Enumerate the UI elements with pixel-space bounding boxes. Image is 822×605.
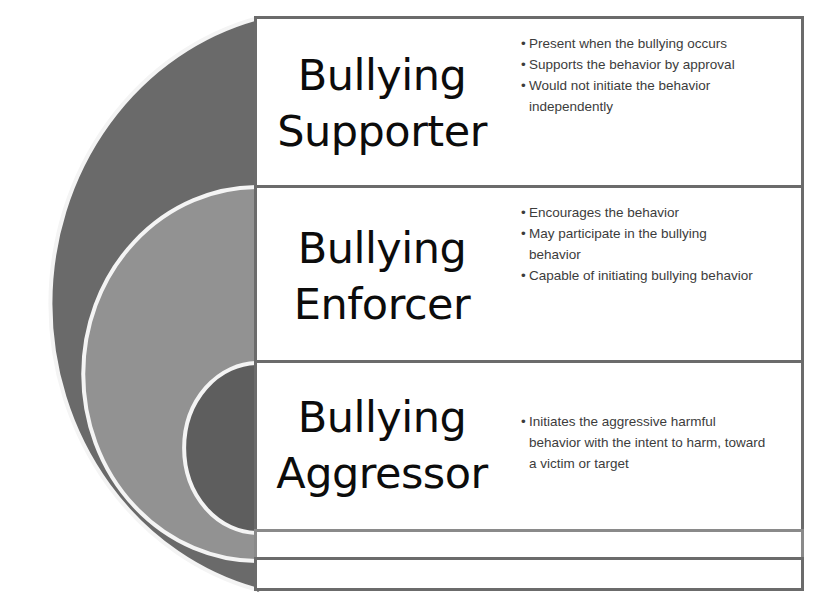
bullying-roles-diagram: Bullying Supporter Present when the bull… [0,0,822,605]
row-box-enforcer: Bullying Enforcer Encourages the behavio… [254,185,804,363]
bullet-list-supporter: Present when the bullying occurs Support… [521,33,791,117]
bullet-list-aggressor: Initiates the aggressive harmful behavio… [521,411,791,474]
bullet-item: Encourages the behavior [521,202,791,223]
bullet-item: Supports the behavior by approval [521,54,791,75]
empty-row-box-1 [254,529,804,560]
bullet-item: Would not initiate the behavior independ… [521,75,754,117]
empty-row-box-2 [254,557,804,591]
row-title-supporter: Bullying Supporter [257,47,507,159]
bullet-item: Present when the bullying occurs [521,33,791,54]
row-title-aggressor: Bullying Aggressor [257,389,507,501]
bullet-item: Capable of initiating bullying behavior [521,265,754,286]
row-box-supporter: Bullying Supporter Present when the bull… [254,16,804,188]
bullet-list-enforcer: Encourages the behavior May participate … [521,202,791,286]
bullet-item: Initiates the aggressive harmful behavio… [521,411,769,474]
row-box-aggressor: Bullying Aggressor Initiates the aggress… [254,360,804,532]
bullet-item: May participate in the bullying behavior [521,223,754,265]
row-title-enforcer: Bullying Enforcer [257,220,507,332]
